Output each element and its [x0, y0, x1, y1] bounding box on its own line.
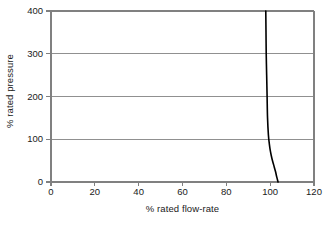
x-tick-label-60: 60	[177, 187, 188, 197]
x-axis-title: % rated flow-rate	[51, 204, 314, 214]
x-tick-label-0: 0	[48, 187, 53, 197]
y-axis-title: % rated pressure	[2, 0, 18, 182]
chart-figure: 400 300 200 100 0 0 20 40 60 80 100 120 …	[0, 0, 330, 225]
x-tick-label-40: 40	[133, 187, 144, 197]
x-tick-label-120: 120	[306, 187, 322, 197]
x-tick-label-100: 100	[262, 187, 278, 197]
x-axis-tick-labels: 0 20 40 60 80 100 120	[0, 0, 330, 225]
x-tick-label-80: 80	[221, 187, 232, 197]
x-tick-label-20: 20	[90, 187, 101, 197]
